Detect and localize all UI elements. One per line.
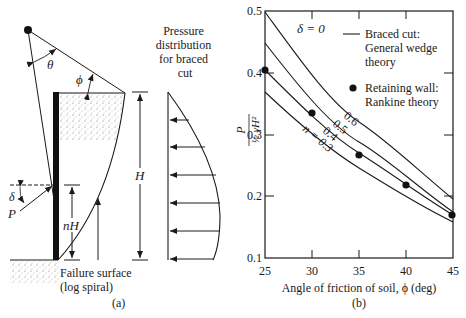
- legend: Braced cut: General wedge theory Retaini…: [343, 27, 442, 109]
- legend-braced-cut-label: Braced cut: General wedge theory: [365, 27, 440, 69]
- x-axis-label: Angle of friction of soil, ϕ (deg): [282, 281, 437, 295]
- svg-text:25: 25: [259, 264, 271, 278]
- thrust-P-arrow: [20, 186, 52, 211]
- svg-text:0.4: 0.4: [247, 66, 262, 80]
- svg-text:0.2: 0.2: [247, 189, 262, 203]
- delta-arc: [20, 187, 24, 203]
- pressure-arrows: [170, 120, 220, 259]
- curve-labels: 0.6 0.5 0.4 n = 0.3: [300, 109, 361, 155]
- svg-text:45: 45: [447, 264, 459, 278]
- soil-backfill: [58, 93, 125, 140]
- svg-text:0.3: 0.3: [247, 128, 262, 142]
- svg-text:0.5: 0.5: [247, 4, 262, 18]
- svg-text:P: P: [234, 126, 248, 135]
- delta-label: δ: [9, 190, 15, 204]
- phi-arc: [88, 74, 93, 93]
- pressure-envelope: [168, 92, 220, 260]
- nH-label: nH: [63, 218, 80, 233]
- x-tick-labels: 25 30 35 40 45: [259, 264, 459, 278]
- pressure-title: Pressure distribution for braced cut: [156, 24, 214, 80]
- failure-surface-label: Failure surface (log spiral): [60, 266, 135, 294]
- wall: [53, 92, 59, 260]
- panel-b-caption: (b): [352, 296, 366, 310]
- svg-text:30: 30: [306, 264, 318, 278]
- panel-b-chart: P ½ γH² 0.5 0.4 0.3 0.2 0.1 25 30 35 40 …: [234, 4, 459, 310]
- curve-n-0.5: [265, 43, 453, 212]
- H-label: H: [134, 168, 145, 183]
- svg-text:0.1: 0.1: [247, 251, 262, 265]
- radius-line-wall: [28, 30, 54, 200]
- phi-label: ϕ: [76, 72, 83, 87]
- P-label: P: [7, 206, 16, 221]
- theta-label: θ: [47, 57, 54, 72]
- legend-dot-swatch: [349, 84, 356, 91]
- svg-text:35: 35: [353, 264, 365, 278]
- panel-a-diagram: θ ϕ δ P nH H Pressure distribution for b…: [7, 24, 220, 310]
- legend-retaining-wall-label: Retaining wall: Rankine theory: [365, 81, 442, 109]
- figure-canvas: θ ϕ δ P nH H Pressure distribution for b…: [0, 0, 466, 318]
- panel-a-caption: (a): [112, 296, 125, 310]
- soil-base: [10, 261, 60, 283]
- svg-text:40: 40: [400, 264, 412, 278]
- y-tick-labels: 0.5 0.4 0.3 0.2 0.1: [247, 4, 262, 265]
- delta-zero-note: δ = 0: [297, 21, 325, 36]
